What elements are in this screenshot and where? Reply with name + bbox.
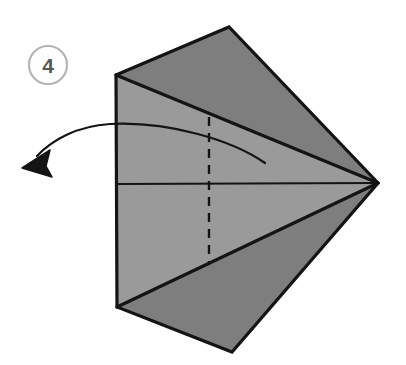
- step-badge: 4: [29, 46, 67, 84]
- origami-diagram: 4: [0, 0, 406, 365]
- origami-figure-canvas: 4: [0, 0, 406, 365]
- horizontal-center-fold: [117, 183, 378, 184]
- step-number-label: 4: [42, 54, 54, 77]
